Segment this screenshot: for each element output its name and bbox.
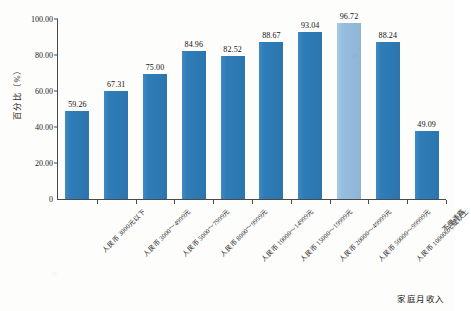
bar-value-label: 84.96 — [185, 40, 204, 49]
bar-group: 59.26 — [58, 19, 97, 199]
plot-area: 59.2667.3175.0084.9682.5288.6793.0496.72… — [58, 19, 446, 199]
y-axis-tick-label: 80.00 — [35, 51, 53, 60]
bar-value-label: 49.09 — [417, 120, 436, 129]
y-axis-tick-mark — [54, 55, 58, 56]
bar-value-label: 88.24 — [379, 31, 398, 40]
x-axis-tick-mark — [368, 200, 369, 204]
y-axis-tick-label: 20.00 — [35, 159, 53, 168]
bar-value-label: 93.04 — [301, 21, 320, 30]
y-axis-tick-mark — [54, 163, 58, 164]
bar-value-label: 82.52 — [223, 45, 242, 54]
x-axis-category-label: 人民币 3000元以下 — [99, 206, 147, 254]
y-axis-tick-label: 0 — [49, 195, 53, 204]
y-axis-tick-mark — [54, 127, 58, 128]
x-axis-tick-mark — [174, 200, 175, 204]
y-axis-tick-label: 40.00 — [35, 123, 53, 132]
bar — [259, 42, 283, 199]
y-axis-tick-label: 60.00 — [35, 87, 53, 96]
bar-group: 88.24 — [368, 19, 407, 199]
bar-value-label: 75.00 — [146, 63, 165, 72]
bar — [221, 56, 245, 199]
y-axis-tick-labels: 020.0040.0060.0080.00100.00 — [0, 0, 53, 311]
y-axis-tick-label: 100.00 — [31, 15, 53, 24]
x-axis-tick-mark — [407, 200, 408, 204]
bar — [298, 32, 322, 199]
bar-group: 75.00 — [136, 19, 175, 199]
x-axis-tick-mark — [97, 200, 98, 204]
bar-value-label: 67.31 — [107, 80, 126, 89]
x-axis-title: 家庭月收入 — [397, 292, 445, 304]
bar-group: 82.52 — [213, 19, 252, 199]
x-axis-tick-mark — [446, 200, 447, 204]
bar — [104, 91, 128, 199]
x-axis-tick-mark — [213, 200, 214, 204]
y-axis-tick-mark — [54, 91, 58, 92]
bar — [143, 74, 167, 199]
y-axis-tick-mark — [54, 19, 58, 20]
bar-group: 67.31 — [97, 19, 136, 199]
bar-value-label: 88.67 — [262, 31, 281, 40]
bar-value-label: 59.26 — [68, 100, 87, 109]
bar-group: 93.04 — [291, 19, 330, 199]
bar — [415, 131, 439, 199]
bar-highlighted — [337, 23, 361, 199]
x-axis-tick-mark — [330, 200, 331, 204]
bar — [376, 42, 400, 199]
bar-group: 84.96 — [174, 19, 213, 199]
x-axis-tick-mark — [136, 200, 137, 204]
bar-group: 88.67 — [252, 19, 291, 199]
bar — [182, 51, 206, 199]
bar — [65, 111, 89, 199]
bar-group: 96.72 — [330, 19, 369, 199]
bar-group: 49.09 — [407, 19, 446, 199]
x-axis-tick-mark — [252, 200, 253, 204]
bar-value-label: 96.72 — [340, 12, 359, 21]
x-axis-tick-mark — [291, 200, 292, 204]
